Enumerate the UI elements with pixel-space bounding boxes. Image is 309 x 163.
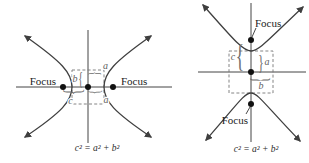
right-focus-label-bottom: Focus xyxy=(222,114,248,126)
right-branch-top xyxy=(203,5,303,51)
right-a-label: a xyxy=(265,56,270,67)
left-focus-label-right: Focus xyxy=(121,75,147,87)
left-a-top-brace: { xyxy=(87,72,104,76)
left-formula: c² = a² + b² xyxy=(75,143,120,153)
left-a-bottom-brace: } xyxy=(87,90,106,94)
right-formula: c² = a² + b² xyxy=(234,144,279,154)
left-a-top-label: a xyxy=(103,60,108,71)
right-c-label: c xyxy=(231,51,236,62)
left-b-label: b xyxy=(73,73,78,84)
left-b-brace: { xyxy=(78,69,83,89)
right-c-brace: { xyxy=(236,38,244,74)
left-c-bottom-brace: } xyxy=(61,89,91,96)
right-branch-bottom xyxy=(206,93,300,141)
left-hyperbola-diagram: { { } } b a c a Focus Focus c² = a² + b² xyxy=(16,30,172,153)
right-hyperbola-diagram: { } } c a b Focus Focus c² = a² + b² xyxy=(198,3,306,154)
left-c-bottom-label: c xyxy=(68,95,73,106)
right-focus-dot-bottom xyxy=(248,101,254,107)
right-focus-dot-top xyxy=(248,37,254,43)
left-focus-dot-left xyxy=(60,84,66,90)
left-focus-dot-right xyxy=(110,84,116,90)
right-center-dot xyxy=(248,69,254,75)
right-a-brace: } xyxy=(258,49,264,74)
left-center-dot xyxy=(85,84,91,90)
figure-svg: { { } } b a c a Focus Focus c² = a² + b² xyxy=(0,0,309,163)
right-b-label: b xyxy=(259,80,264,91)
right-bottom-focus-pointer xyxy=(246,107,250,114)
left-a-bottom-label: a xyxy=(104,94,109,105)
right-top-focus-pointer xyxy=(252,28,256,37)
hyperbola-figure: { { } } b a c a Focus Focus c² = a² + b² xyxy=(0,0,309,163)
left-focus-label-left: Focus xyxy=(30,75,56,87)
right-focus-label-top: Focus xyxy=(255,17,281,29)
